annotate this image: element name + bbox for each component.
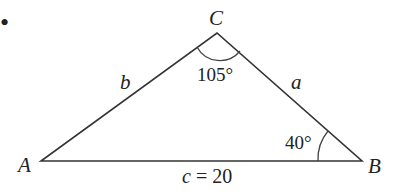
vertex-label-C: C [209, 6, 224, 30]
side-label-a: a [291, 70, 302, 94]
angle-arc-C [197, 47, 240, 61]
angle-arc-B [318, 131, 328, 161]
side-label-b: b [120, 70, 131, 94]
side-label-c: c = 20 [182, 165, 232, 187]
vertex-label-A: A [16, 153, 31, 177]
angle-label-B: 40° [285, 132, 312, 153]
bullet-marker: • [0, 8, 9, 37]
triangle-ABC [41, 33, 362, 161]
vertex-label-B: B [368, 154, 381, 178]
angle-label-C: 105° [197, 64, 233, 85]
triangle-diagram: • C A B b a c = 20 105° 40° [0, 0, 393, 195]
